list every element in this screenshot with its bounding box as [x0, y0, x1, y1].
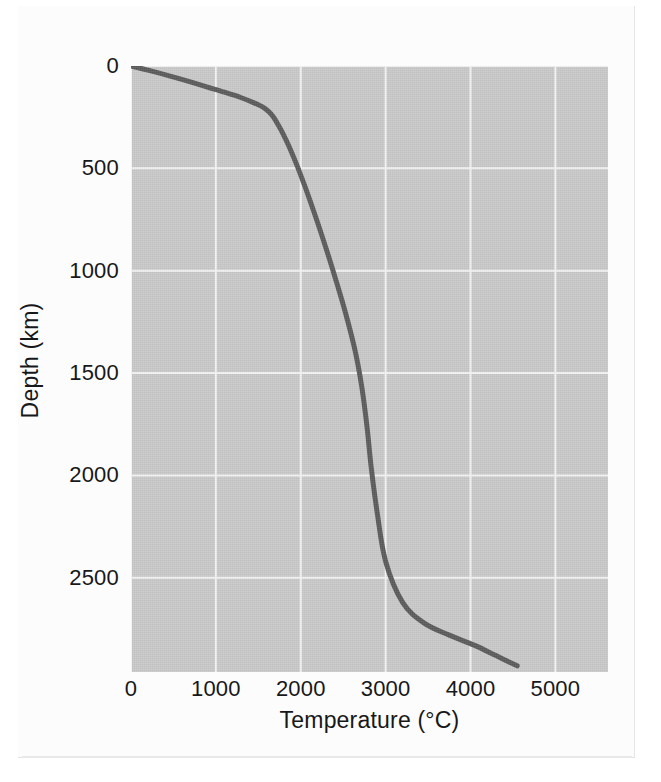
geotherm-curve-path — [131, 66, 517, 666]
figure-page: 05001000150020002500 Temperature (°C) De… — [0, 0, 661, 782]
geotherm-curve — [131, 66, 608, 672]
y-tick-label: 1000 — [69, 258, 119, 284]
x-tick-label: 0 — [125, 676, 137, 702]
y-axis-title: Depth (km) — [17, 271, 44, 451]
x-tick-label: 1000 — [191, 676, 241, 702]
x-axis-title: Temperature (°C) — [131, 707, 608, 734]
geotherm-chart: 05001000150020002500 Temperature (°C) De… — [0, 0, 661, 782]
plot-area — [131, 66, 608, 672]
y-tick-label: 2500 — [69, 565, 119, 591]
gridlines-group — [131, 66, 608, 672]
x-tick-label: 5000 — [531, 676, 581, 702]
y-tick-label: 0 — [107, 53, 119, 79]
y-tick-label: 1500 — [69, 360, 119, 386]
y-tick-label: 2000 — [69, 462, 119, 488]
x-tick-label: 4000 — [446, 676, 496, 702]
x-tick-label: 3000 — [361, 676, 411, 702]
y-tick-label: 500 — [82, 155, 119, 181]
x-tick-label: 2000 — [276, 676, 326, 702]
